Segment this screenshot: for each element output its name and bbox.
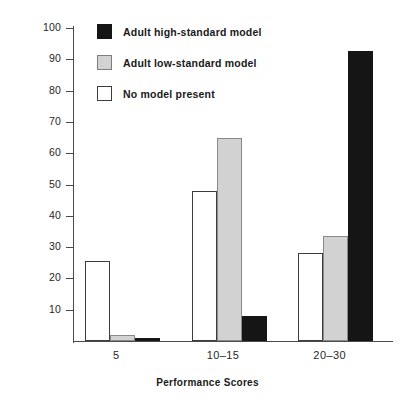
legend-label: Adult high-standard model — [123, 26, 262, 38]
y-axis-tick-label: 100 — [43, 21, 61, 33]
legend-item: No model present — [97, 86, 262, 101]
y-axis-tick — [66, 185, 73, 186]
x-axis-tick-label: 10–15 — [207, 349, 240, 361]
bar — [242, 316, 267, 341]
y-axis-tick — [66, 278, 73, 279]
y-axis-tick — [66, 28, 73, 29]
y-axis-tick-label: 70 — [49, 115, 61, 127]
x-axis-title: Performance Scores — [0, 377, 415, 388]
bar — [135, 338, 160, 341]
legend-swatch-high-standard-icon — [97, 24, 112, 39]
y-axis-tick-label: 50 — [49, 178, 61, 190]
bar — [192, 191, 217, 341]
y-axis-tick-label: 30 — [49, 240, 61, 252]
x-axis-tick-label: 5 — [113, 349, 120, 361]
y-axis-tick-label: 10 — [49, 303, 61, 315]
y-axis-tick — [66, 216, 73, 217]
legend-item: Adult high-standard model — [97, 24, 262, 39]
y-axis-tick — [66, 153, 73, 154]
legend-swatch-low-standard-icon — [97, 55, 112, 70]
y-axis-tick-label: 60 — [49, 146, 61, 158]
bar — [110, 335, 135, 341]
bar — [348, 51, 373, 341]
x-axis-line — [73, 341, 393, 342]
y-axis-tick — [66, 310, 73, 311]
legend-label: No model present — [123, 88, 215, 100]
x-axis-tick-label: 20–30 — [313, 349, 346, 361]
legend-swatch-no-model-icon — [97, 86, 112, 101]
bar-chart: Percent of Self-Reinforcement 1020304050… — [0, 0, 415, 410]
bar — [217, 138, 242, 341]
y-axis-tick-label: 80 — [49, 84, 61, 96]
bar — [85, 261, 110, 341]
bar — [323, 236, 348, 341]
y-axis-tick — [66, 247, 73, 248]
y-axis-tick-label: 20 — [49, 271, 61, 283]
y-axis-tick-label: 90 — [49, 52, 61, 64]
legend-item: Adult low-standard model — [97, 55, 262, 70]
y-axis-tick — [66, 91, 73, 92]
legend-label: Adult low-standard model — [123, 57, 257, 69]
bar — [298, 253, 323, 341]
y-axis-tick — [66, 122, 73, 123]
y-axis-tick-label: 40 — [49, 209, 61, 221]
chart-legend: Adult high-standard model Adult low-stan… — [97, 24, 262, 101]
y-axis-tick — [66, 59, 73, 60]
